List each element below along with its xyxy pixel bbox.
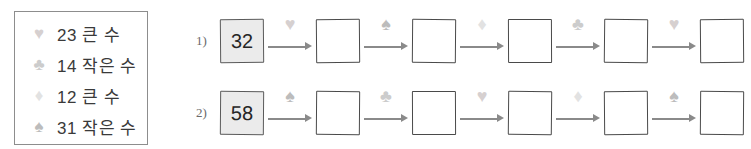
- arrow-shaft: [364, 46, 402, 48]
- legend-rule-text: 12 큰 수: [57, 83, 120, 108]
- answer-box[interactable]: [316, 19, 360, 63]
- legend-rule-text: 14 작은 수: [57, 52, 137, 77]
- heart-icon: ♥: [29, 25, 49, 42]
- club-icon: ♣: [29, 56, 49, 73]
- suit-rule-legend: ♥23 큰 수♣14 작은 수♦12 큰 수♠31 작은 수: [14, 11, 148, 145]
- spade-icon: ♠: [29, 118, 49, 135]
- club-icon: ♣: [380, 87, 392, 105]
- transition-arrow: ♦: [552, 91, 604, 135]
- start-value-box: 58: [220, 91, 264, 135]
- transition-arrow: ♥: [648, 19, 700, 63]
- diamond-icon: ♦: [477, 15, 486, 33]
- legend-row: ♦12 큰 수: [15, 80, 147, 111]
- legend-row: ♣14 작은 수: [15, 49, 147, 80]
- arrow-head: [593, 114, 600, 122]
- legend-row: ♠31 작은 수: [15, 111, 147, 142]
- arrow-shaft: [268, 118, 306, 120]
- arrow-head: [497, 114, 504, 122]
- sequence-number-label: 1): [196, 33, 220, 49]
- answer-box[interactable]: [412, 91, 456, 135]
- sequence-number-label: 2): [196, 105, 220, 121]
- arrow-head: [401, 42, 408, 50]
- answer-box[interactable]: [604, 91, 648, 135]
- sequence-row-2: 2)58♠♣♥♦♠: [196, 78, 744, 148]
- answer-box[interactable]: [700, 91, 744, 135]
- arrow-head: [305, 114, 312, 122]
- answer-box[interactable]: [412, 19, 456, 63]
- sequence-row-1: 1)32♥♠♦♣♥: [196, 6, 744, 76]
- arrow-shaft: [556, 118, 594, 120]
- arrow-shaft: [268, 46, 306, 48]
- arrow-shaft: [364, 118, 402, 120]
- club-icon: ♣: [572, 15, 584, 33]
- transition-arrow: ♠: [264, 91, 316, 135]
- worksheet-canvas: ♥23 큰 수♣14 작은 수♦12 큰 수♠31 작은 수 1)32♥♠♦♣♥…: [0, 0, 751, 149]
- arrow-head: [689, 42, 696, 50]
- legend-row: ♥23 큰 수: [15, 18, 147, 49]
- transition-arrow: ♥: [264, 19, 316, 63]
- arrow-shaft: [652, 118, 690, 120]
- answer-box[interactable]: [316, 91, 360, 135]
- transition-arrow: ♣: [552, 19, 604, 63]
- diamond-icon: ♦: [573, 87, 582, 105]
- arrow-shaft: [652, 46, 690, 48]
- diamond-icon: ♦: [29, 87, 49, 104]
- heart-icon: ♥: [669, 15, 680, 33]
- heart-icon: ♥: [285, 15, 296, 33]
- arrow-shaft: [460, 118, 498, 120]
- legend-rule-text: 23 큰 수: [57, 21, 120, 46]
- spade-icon: ♠: [381, 15, 391, 33]
- transition-arrow: ♦: [456, 19, 508, 63]
- transition-arrow: ♣: [360, 91, 412, 135]
- heart-icon: ♥: [477, 87, 488, 105]
- arrow-head: [689, 114, 696, 122]
- arrow-head: [305, 42, 312, 50]
- arrow-shaft: [460, 46, 498, 48]
- spade-icon: ♠: [669, 87, 679, 105]
- answer-box[interactable]: [508, 91, 552, 135]
- arrow-head: [497, 42, 504, 50]
- transition-arrow: ♥: [456, 91, 508, 135]
- answer-box[interactable]: [508, 19, 552, 63]
- legend-rule-text: 31 작은 수: [57, 114, 137, 139]
- arrow-shaft: [556, 46, 594, 48]
- answer-box[interactable]: [604, 19, 648, 63]
- transition-arrow: ♠: [360, 19, 412, 63]
- spade-icon: ♠: [285, 87, 295, 105]
- answer-box[interactable]: [700, 19, 744, 63]
- transition-arrow: ♠: [648, 91, 700, 135]
- arrow-head: [593, 42, 600, 50]
- arrow-head: [401, 114, 408, 122]
- start-value-box: 32: [220, 19, 264, 63]
